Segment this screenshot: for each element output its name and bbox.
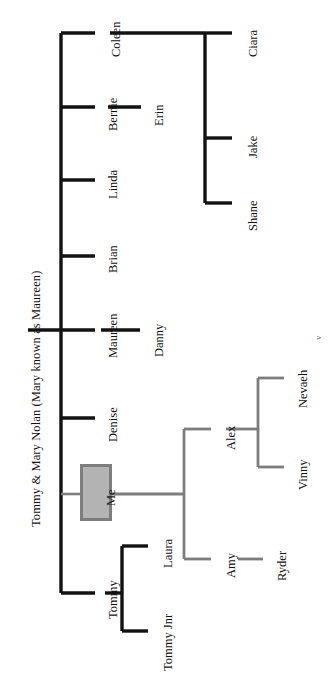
node-label-brian[interactable]: Brian	[107, 245, 120, 273]
node-label-ryder[interactable]: Ryder	[276, 551, 289, 581]
node-label-bernie[interactable]: Bernie	[107, 98, 120, 131]
node-label-denise[interactable]: Denise	[107, 407, 120, 442]
highlight-node-me[interactable]: Me	[80, 464, 112, 521]
node-label-tommy[interactable]: Tommy	[107, 580, 120, 619]
node-label-erin[interactable]: Erin	[153, 104, 166, 126]
family-tree-diagram: Tommy & Mary Nolan (Mary known as Mauree…	[0, 0, 333, 682]
stray-marker-glyph: v	[313, 336, 323, 341]
node-label-tommyjnr[interactable]: Tommy Jnr	[162, 614, 175, 671]
node-label-shane[interactable]: Shane	[247, 200, 260, 231]
node-label-linda[interactable]: Linda	[107, 170, 120, 199]
root-title: Tommy & Mary Nolan (Mary known as Mauree…	[30, 271, 43, 527]
node-label-laura[interactable]: Laura	[162, 539, 175, 568]
node-label-alex[interactable]: Alex	[225, 426, 238, 450]
node-label-ciara[interactable]: Ciara	[247, 30, 260, 57]
node-label-jake[interactable]: Jake	[247, 136, 260, 158]
node-label-me: Me	[104, 489, 119, 506]
node-label-maureen[interactable]: Maureen	[107, 314, 120, 358]
node-label-danny[interactable]: Danny	[153, 324, 166, 357]
node-label-vinny[interactable]: Vinny	[297, 460, 310, 491]
node-label-coleen[interactable]: Coleen	[110, 22, 123, 57]
node-label-amy[interactable]: Amy	[225, 553, 238, 578]
node-label-nevaeh[interactable]: Nevaeh	[297, 370, 310, 408]
